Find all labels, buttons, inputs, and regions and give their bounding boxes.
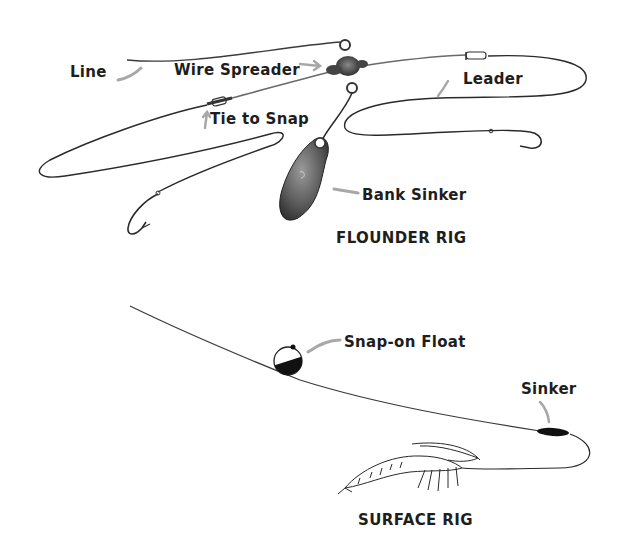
arrow-line bbox=[118, 68, 141, 80]
snap-on-float-icon bbox=[274, 345, 306, 379]
arrow-sinker bbox=[540, 402, 549, 422]
title-flounder-rig: FLOUNDER RIG bbox=[336, 229, 466, 247]
surface-leader bbox=[462, 434, 590, 469]
label-bank-sinker: Bank Sinker bbox=[362, 186, 467, 204]
rig-diagram-canvas bbox=[0, 0, 621, 540]
arrow-leader bbox=[438, 81, 448, 96]
arrow-tie-to-snap bbox=[203, 112, 210, 128]
snap-right-icon bbox=[466, 52, 486, 60]
bank-sinker-icon bbox=[280, 138, 329, 220]
right-hook-icon bbox=[489, 129, 541, 148]
three-way-swivel-icon bbox=[326, 40, 368, 93]
snap-left-icon bbox=[207, 96, 232, 106]
right-leader bbox=[345, 56, 587, 136]
label-sinker: Sinker bbox=[521, 380, 577, 398]
label-line: Line bbox=[70, 63, 107, 81]
label-leader: Leader bbox=[463, 70, 523, 88]
left-hook-icon bbox=[128, 191, 160, 234]
label-snap-on-float: Snap-on Float bbox=[344, 333, 466, 351]
main-line bbox=[127, 42, 340, 61]
shrimp-bait-icon bbox=[338, 443, 480, 494]
arrow-wire-spreader bbox=[300, 61, 320, 70]
arrow-snap-on-float bbox=[308, 340, 340, 352]
surface-main-line bbox=[130, 306, 540, 431]
title-surface-rig: SURFACE RIG bbox=[358, 511, 473, 529]
egg-sinker-icon bbox=[537, 427, 569, 437]
label-tie-to-snap: Tie to Snap bbox=[210, 110, 309, 128]
wire-spreader-right-arm bbox=[362, 55, 466, 66]
arrow-bank-sinker bbox=[334, 189, 358, 193]
sinker-wire bbox=[322, 93, 352, 140]
label-wire-spreader: Wire Spreader bbox=[174, 61, 300, 79]
